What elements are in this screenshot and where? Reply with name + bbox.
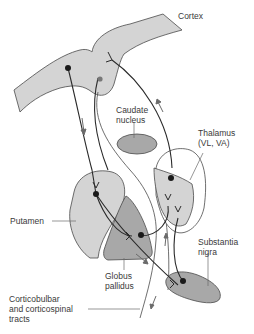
arrowhead [156, 99, 161, 104]
cortex-label: Cortex [178, 11, 203, 21]
putamen-neuron [93, 191, 99, 197]
caudate-structure [117, 134, 157, 154]
cortex-neuron-gray [97, 76, 102, 81]
substantia-nigra-label: Substantia nigra [198, 237, 238, 257]
putamen-label: Putamen [10, 216, 44, 226]
arrow-up-icon [158, 102, 163, 112]
cortex-neuron-black [65, 65, 71, 71]
pallidus-neuron [138, 232, 144, 238]
arrowhead [81, 129, 86, 135]
caudate-nucleus-label: Caudate nucleus [116, 105, 148, 125]
tracts-label: Corticobulbar and corticospinal tracts [9, 294, 73, 324]
globus-pallidus-label: Globus pallidus [105, 271, 134, 291]
thalamus-label: Thalamus (VL, VA) [198, 128, 235, 148]
arrowhead [150, 304, 154, 309]
nigra-neuron [180, 278, 186, 284]
cortex-structure [14, 14, 182, 112]
substantia-nigra-structure [166, 272, 220, 303]
thalamus-neuron [168, 175, 174, 181]
